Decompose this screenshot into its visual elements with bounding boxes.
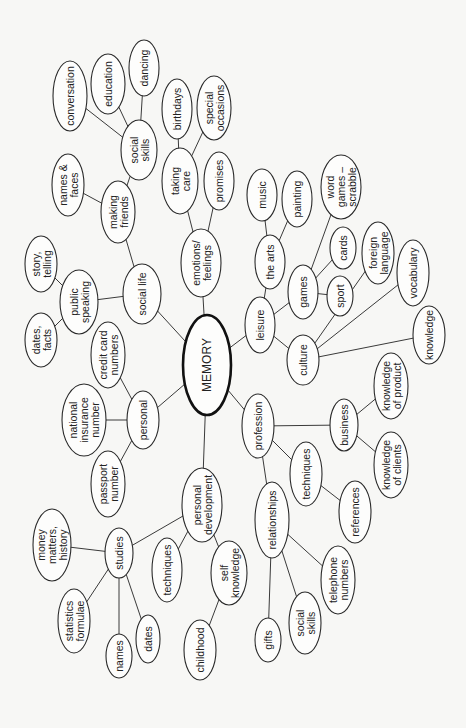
node-label: profession	[252, 402, 264, 451]
node-painting: painting	[282, 171, 312, 227]
node-label: dancing	[138, 49, 150, 86]
node-label: conversation	[64, 66, 76, 126]
node-label: socialskills	[294, 610, 317, 637]
node-credit-card-numbers: credit cardnumbers	[91, 322, 125, 388]
node-vocabulary: vocabulary	[397, 240, 429, 306]
node-telephone-numbers: telephonenumbers	[321, 546, 355, 614]
node-label: knowledgeof clients	[380, 440, 403, 490]
node-foreign-language: foreignlanguage	[362, 222, 394, 284]
node-label: nationalinsurancenumber	[67, 397, 101, 443]
node-self-knowledge: selfknowledge	[211, 541, 247, 605]
node-label: cards	[337, 235, 349, 261]
node-national-insurance-number: nationalinsurancenumber	[62, 384, 106, 456]
node-statistics-formulae: statisticsformulae	[58, 589, 90, 653]
node-label: birthdays	[171, 88, 183, 131]
node-names: names	[106, 634, 132, 678]
node-label: business	[338, 404, 350, 445]
node-knowledge-of-product: knowledgeof product	[374, 353, 408, 419]
node-label: socialskills	[128, 137, 151, 164]
node-business: business	[330, 399, 358, 451]
node-label: childhood	[194, 627, 206, 672]
node-label: emotions/feelings	[190, 240, 213, 286]
node-label: music	[256, 181, 268, 208]
node-word-games-scrabble: wordgames –scrabble	[321, 155, 361, 219]
node-personal-development: personaldevelopment	[182, 468, 222, 542]
node-techniques-pd: techniques	[152, 538, 182, 602]
node-label: studies	[113, 536, 125, 569]
node-personal: personal	[127, 391, 159, 449]
node-making-friends: makingfriends	[101, 181, 135, 243]
node-dates-facts: dates,facts	[25, 313, 57, 367]
node-label: story,telling	[30, 250, 53, 278]
node-label: knowledgeof product	[380, 361, 403, 411]
node-label: statisticsformulae	[63, 600, 86, 641]
node-dates-studies: dates	[136, 615, 160, 663]
node-label: dates,facts	[30, 326, 53, 355]
node-passport-number: passportnumber	[91, 451, 125, 517]
node-label: moneymatters,history	[35, 526, 69, 564]
node-social-skills-rel: socialskills	[289, 592, 321, 654]
node-label: techniques	[300, 449, 312, 500]
edge-culture-to-vocabulary	[303, 273, 413, 360]
node-taking-care: takingcare	[162, 148, 198, 214]
node-money-matters-history: moneymatters,history	[33, 509, 71, 581]
node-emotions-feelings: emotions/feelings	[181, 229, 221, 297]
memory-mind-map: MEMORYsocial lifepublicspeakingstory,tel…	[0, 0, 466, 728]
node-label: social life	[136, 272, 148, 315]
node-cards: cards	[330, 227, 356, 269]
node-references: references	[339, 481, 371, 543]
node-label: references	[349, 487, 361, 537]
node-studies: studies	[105, 528, 133, 578]
node-knowledge-culture: knowledge	[413, 306, 445, 364]
node-label: knowledge	[423, 310, 435, 360]
node-label: vocabulary	[407, 247, 419, 299]
node-social-life: social life	[123, 264, 161, 324]
node-story-telling: story,telling	[25, 236, 57, 292]
node-label: relationships	[266, 491, 278, 550]
node-names-faces: names &faces	[52, 154, 84, 216]
node-the-arts: the arts	[255, 235, 285, 289]
node-public-speaking: publicspeaking	[60, 270, 98, 334]
node-leisure: leisure	[245, 297, 275, 353]
node-education: education	[91, 54, 125, 114]
node-culture: culture	[287, 335, 319, 385]
node-label: techniques	[161, 545, 173, 596]
node-special-occasions: specialoccasions	[197, 76, 231, 140]
node-games: games	[288, 265, 318, 319]
node-techniques-prof: techniques	[290, 442, 322, 506]
node-label: dates	[142, 626, 154, 652]
node-music: music	[247, 169, 277, 221]
node-promises: promises	[204, 152, 234, 210]
node-label: names	[113, 640, 125, 672]
node-label: culture	[297, 344, 309, 376]
node-profession: profession	[242, 394, 274, 458]
node-childhood: childhood	[184, 620, 216, 680]
node-label: telephonenumbers	[327, 557, 350, 603]
mind-map-nodes: MEMORYsocial lifepublicspeakingstory,tel…	[25, 40, 445, 680]
node-memory: MEMORY	[183, 315, 231, 415]
node-dancing: dancing	[129, 40, 159, 96]
node-label: passportnumber	[97, 464, 120, 504]
node-conversation: conversation	[53, 61, 87, 131]
node-label: painting	[291, 180, 303, 217]
node-label: foreignlanguage	[367, 231, 390, 274]
node-label: sport	[334, 284, 346, 307]
node-sport: sport	[327, 276, 353, 316]
node-knowledge-of-clients: knowledgeof clients	[374, 432, 408, 498]
node-label: leisure	[254, 309, 266, 340]
node-label: credit cardnumbers	[97, 330, 120, 379]
node-social-skills-top: socialskills	[121, 120, 157, 180]
node-label: gifts	[262, 630, 274, 649]
node-birthdays: birthdays	[162, 79, 192, 139]
node-gifts: gifts	[255, 618, 281, 662]
node-label: promises	[213, 160, 225, 203]
node-label: games	[297, 276, 309, 308]
node-label: makingfriends	[107, 195, 130, 229]
node-label: takingcare	[169, 167, 192, 195]
node-label: personal	[137, 400, 149, 440]
node-relationships: relationships	[255, 482, 289, 558]
edge-culture-to-knowledge-culture	[303, 335, 429, 360]
node-label: MEMORY	[200, 338, 214, 392]
node-label: education	[102, 61, 114, 107]
node-label: the arts	[264, 244, 276, 279]
